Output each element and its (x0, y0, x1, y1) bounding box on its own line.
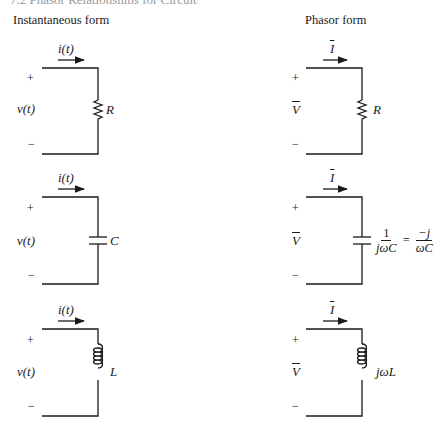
current-label: i(t) (58, 41, 74, 57)
phasor-current-label: I (330, 170, 334, 186)
plus-sign: + (27, 71, 34, 86)
inductor-coil (94, 344, 103, 368)
plus-sign: + (27, 201, 34, 216)
phasor-inductor-circuit (306, 321, 367, 416)
equals-sign: = (403, 233, 410, 248)
instantaneous-inductor-circuit (42, 321, 103, 416)
minus-sign: − (28, 268, 35, 283)
impedance-fraction-2: −j ωC (416, 226, 433, 255)
current-label: i(t) (58, 170, 74, 186)
resistor-label: R (373, 102, 381, 118)
phasor-current-label: I (330, 302, 334, 318)
numerator: 1 (381, 226, 391, 241)
capacitor-impedance: 1 jωC = −j ωC (376, 226, 433, 255)
inductor-impedance-label: jωL (376, 364, 396, 380)
inductor-label: L (110, 364, 117, 380)
instantaneous-capacitor-circuit (42, 189, 107, 284)
numerator: −j (416, 226, 432, 241)
inductor-coil (358, 344, 367, 368)
current-label: i(t) (58, 302, 74, 318)
resistor-symbol (94, 100, 102, 119)
resistor-label: R (106, 102, 114, 118)
phasor-resistor-circuit (306, 60, 366, 154)
resistor-symbol (358, 100, 366, 119)
phasor-current-label: I (330, 41, 334, 57)
voltage-label: v(t) (17, 101, 35, 117)
minus-sign: − (28, 399, 35, 414)
phasor-voltage-label: V (292, 102, 300, 118)
plus-sign: + (27, 333, 34, 348)
denominator: jωC (376, 241, 397, 255)
instantaneous-resistor-circuit (42, 60, 102, 154)
minus-sign: − (292, 137, 299, 152)
voltage-label: v(t) (17, 364, 35, 380)
impedance-fraction-1: 1 jωC (376, 226, 397, 255)
phasor-voltage-label: V (292, 364, 300, 380)
denominator: ωC (416, 241, 433, 255)
plus-sign: + (292, 333, 299, 348)
plus-sign: + (292, 201, 299, 216)
capacitor-label: C (110, 233, 119, 249)
plus-sign: + (292, 71, 299, 86)
voltage-label: v(t) (17, 233, 35, 249)
phasor-capacitor-circuit (306, 189, 371, 284)
minus-sign: − (28, 137, 35, 152)
phasor-voltage-label: V (292, 233, 300, 249)
minus-sign: − (292, 399, 299, 414)
minus-sign: − (292, 268, 299, 283)
